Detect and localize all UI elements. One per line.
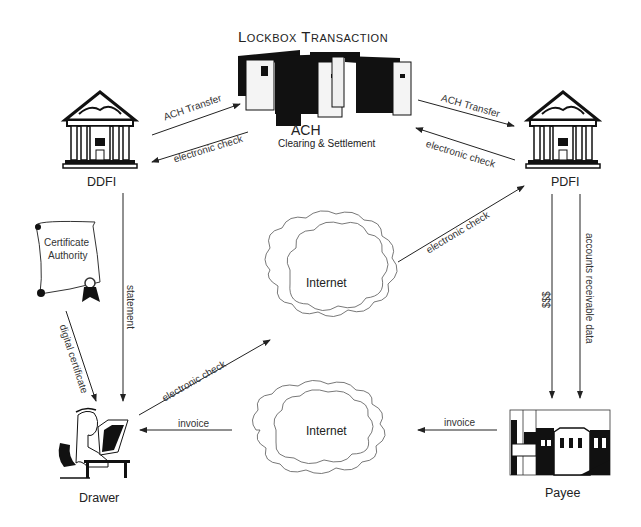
pdfi-label: PDFI	[551, 175, 579, 189]
diagram-canvas	[0, 0, 641, 527]
internet-cloud-top-icon	[265, 211, 397, 317]
edge-label-pdfi-to-payee-money: $$$	[541, 291, 552, 308]
edge-label-payee-to-internet: invoice	[444, 417, 475, 428]
ach-sublabel: Clearing & Settlement	[278, 138, 375, 149]
edge-label-internet-to-drawer: invoice	[178, 418, 209, 429]
internet-top-label: Internet	[306, 276, 347, 290]
internet-bottom-label: Internet	[306, 424, 347, 438]
ddfi-label: DDFI	[87, 175, 116, 189]
certificate-authority-label-line1: Certificate	[44, 237, 89, 248]
payee-storefront-icon	[510, 410, 610, 475]
drawer-person-icon	[59, 408, 130, 478]
certificate-scroll-icon	[35, 221, 100, 302]
drawer-label: Drawer	[79, 491, 119, 505]
edge-label-ddfi-to-drawer: statement	[125, 285, 136, 329]
certificate-authority-label-line2: Authority	[48, 250, 87, 261]
ach-label: ACH	[291, 122, 321, 138]
ach-servers-icon	[238, 50, 411, 126]
diagram-title: Lockbox Transaction	[238, 28, 388, 45]
ddfi-bank-icon	[63, 92, 137, 168]
pdfi-bank-icon	[526, 92, 600, 168]
payee-label: Payee	[545, 486, 580, 500]
edge-label-pdfi-to-payee-ar: accounts receivable data	[584, 233, 595, 344]
